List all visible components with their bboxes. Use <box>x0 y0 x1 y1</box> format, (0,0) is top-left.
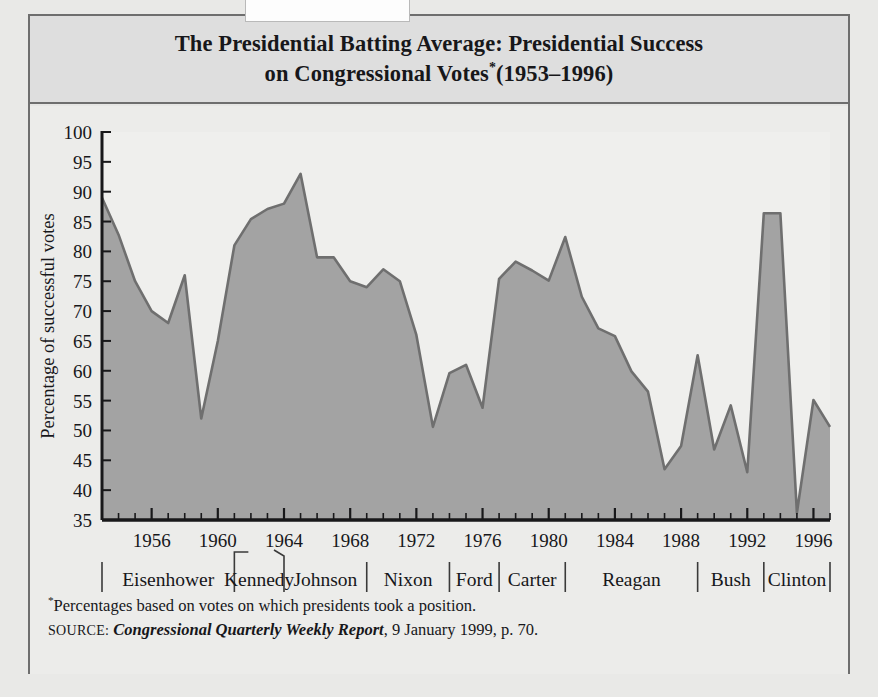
y-tick-label: 35 <box>73 510 92 531</box>
president-label: Reagan <box>602 569 661 590</box>
y-axis-title: Percentage of successful votes <box>38 213 58 439</box>
president-label: Johnson <box>293 569 357 590</box>
y-tick-label: 90 <box>73 182 92 203</box>
x-tick-label: 1964 <box>265 530 304 551</box>
y-tick-label: 100 <box>64 122 93 143</box>
footnote-text: Percentages based on votes on which pres… <box>54 596 477 615</box>
y-tick-label: 70 <box>73 301 92 322</box>
source-rest: , 9 January 1999, p. 70. <box>384 620 538 639</box>
x-tick-label: 1976 <box>464 530 502 551</box>
president-label: Nixon <box>384 569 433 590</box>
y-tick-label: 60 <box>73 361 92 382</box>
figure-title-band: The Presidential Batting Average: Presid… <box>30 16 848 104</box>
figure-title-line-2-pre: on Congressional Votes <box>265 60 489 85</box>
area-chart: 35404550556065707580859095100Percentage … <box>30 106 848 674</box>
president-label: Eisenhower <box>122 569 215 590</box>
figure-title-asterisk: * <box>489 60 496 75</box>
figure-title-line-2-post: (1953–1996) <box>496 60 613 85</box>
source-label: SOURCE: <box>48 623 109 638</box>
source-line: SOURCE: Congressional Quarterly Weekly R… <box>48 618 828 643</box>
y-tick-label: 85 <box>73 212 92 233</box>
y-tick-label: 55 <box>73 391 92 412</box>
footnote: *Percentages based on votes on which pre… <box>48 592 828 618</box>
figure-notes: *Percentages based on votes on which pre… <box>48 592 828 643</box>
x-tick-label: 1992 <box>728 530 766 551</box>
chart-panel: 35404550556065707580859095100Percentage … <box>30 106 848 674</box>
x-tick-label: 1984 <box>596 530 635 551</box>
y-tick-label: 50 <box>73 420 92 441</box>
x-tick-label: 1996 <box>794 530 832 551</box>
president-label: Bush <box>711 569 751 590</box>
page-top-tab <box>245 0 410 22</box>
x-tick-label: 1980 <box>530 530 568 551</box>
president-label: Clinton <box>768 569 827 590</box>
y-tick-label: 65 <box>73 331 92 352</box>
y-tick-label: 75 <box>73 271 92 292</box>
y-tick-label: 40 <box>73 480 92 501</box>
x-tick-label: 1972 <box>397 530 435 551</box>
y-tick-label: 80 <box>73 241 92 262</box>
figure-container: The Presidential Batting Average: Presid… <box>28 14 850 674</box>
x-tick-label: 1956 <box>133 530 171 551</box>
president-label: Carter <box>508 569 557 590</box>
president-label: Ford <box>456 569 493 590</box>
figure-title: The Presidential Batting Average: Presid… <box>155 30 723 88</box>
source-title: Congressional Quarterly Weekly Report <box>113 620 383 639</box>
x-tick-label: 1960 <box>199 530 237 551</box>
y-tick-label: 95 <box>73 152 92 173</box>
x-tick-label: 1988 <box>662 530 700 551</box>
y-tick-label: 45 <box>73 450 92 471</box>
x-tick-label: 1968 <box>331 530 369 551</box>
figure-title-line-1: The Presidential Batting Average: Presid… <box>175 31 703 56</box>
